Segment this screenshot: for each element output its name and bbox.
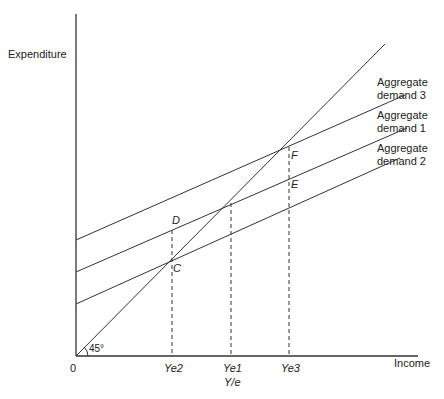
x-tick-ye3: Ye3: [281, 362, 300, 375]
x-tick-ye2: Ye2: [164, 362, 183, 375]
x-tick-ye1: Ye1: [223, 362, 242, 375]
point-f-label: F: [291, 149, 298, 162]
full-employment-label: Y/e: [224, 376, 241, 389]
angle-label: 45°: [89, 342, 104, 355]
point-e-label: E: [291, 178, 298, 191]
aggregate-demand-1-label: Aggregate demand 1: [377, 109, 428, 135]
angle-arc: [84, 347, 88, 356]
aggregate-demand-3-line: [76, 95, 405, 240]
aggregate-demand-2-label: Aggregate demand 2: [377, 142, 428, 168]
ad3-label-line1: Aggregate: [377, 76, 428, 89]
ad1-label-line2: demand 1: [377, 122, 428, 135]
origin-label: 0: [70, 362, 76, 375]
ad2-label-line2: demand 2: [377, 155, 428, 168]
ad3-label-line2: demand 3: [377, 89, 428, 102]
aggregate-demand-3-label: Aggregate demand 3: [377, 76, 428, 102]
x-axis-label: Income: [394, 357, 430, 370]
ad1-label-line1: Aggregate: [377, 109, 428, 122]
aggregate-demand-2-line: [76, 158, 400, 304]
y-axis-label: Expenditure: [8, 48, 67, 61]
ad2-label-line1: Aggregate: [377, 142, 428, 155]
aggregate-demand-1-line: [76, 128, 407, 272]
point-c-label: C: [173, 262, 181, 275]
point-d-label: D: [172, 214, 180, 227]
